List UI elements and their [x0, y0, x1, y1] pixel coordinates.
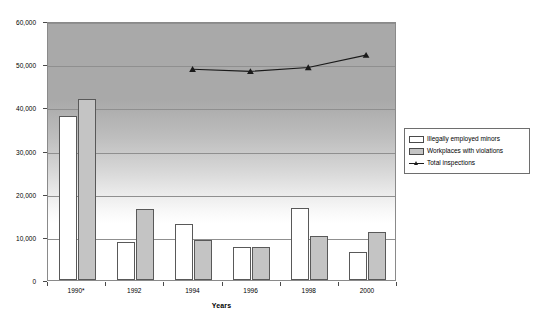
gridline [48, 66, 395, 67]
legend-item-label: Workplaces with violations [427, 147, 503, 155]
x-axis-tick-label: 2000 [360, 287, 374, 295]
x-axis-tick-label: 1996 [243, 287, 257, 295]
bar [310, 236, 328, 280]
total-inspections-line-series [48, 23, 395, 280]
bar [252, 247, 270, 280]
gridline [48, 196, 395, 197]
y-axis: 010,00020,00030,00040,00050,00060,000 [0, 0, 43, 329]
line-path [193, 55, 367, 71]
x-axis-tick-mark [396, 282, 397, 286]
x-axis-tick-mark [338, 282, 339, 286]
line-data-point-marker [247, 68, 254, 74]
x-axis-tick-mark [163, 282, 164, 286]
y-axis-tick-label: 40,000 [16, 105, 36, 112]
legend-item-total-inspections[interactable]: Total inspections [409, 157, 525, 169]
gridline [48, 239, 395, 240]
gridline [48, 109, 395, 110]
x-axis: 1990*19921994199619982000 [47, 287, 396, 299]
y-axis-tick-label: 30,000 [16, 148, 36, 155]
bar [117, 242, 135, 280]
gridline [48, 153, 395, 154]
legend-item-minors[interactable]: Illegally employed minors [409, 133, 525, 145]
y-axis-tick-label: 60,000 [16, 19, 36, 26]
y-axis-tick-label: 20,000 [16, 191, 36, 198]
x-axis-tick-label: 1994 [185, 287, 199, 295]
line-data-point-marker [363, 52, 370, 58]
y-axis-tick-label: 10,000 [16, 234, 36, 241]
white-bar-swatch-icon [409, 136, 424, 143]
bar [194, 240, 212, 280]
plot-area [47, 22, 396, 281]
line-triangle-marker-icon [409, 160, 424, 167]
bar [233, 247, 251, 280]
legend-item-label: Illegally employed minors [427, 135, 500, 143]
x-axis-tick-mark [105, 282, 106, 286]
x-axis-tick-mark [222, 282, 223, 286]
gray-bar-swatch-icon [409, 148, 424, 155]
chart-legend: Illegally employed minors Workplaces wit… [404, 128, 530, 174]
y-axis-tick-label: 0 [32, 278, 36, 285]
legend-item-violations[interactable]: Workplaces with violations [409, 145, 525, 157]
y-axis-tick-label: 50,000 [16, 62, 36, 69]
x-axis-tick-mark [280, 282, 281, 286]
chart-container: 010,00020,00030,00040,00050,00060,000 19… [0, 0, 535, 329]
x-axis-tick-label: 1992 [127, 287, 141, 295]
bar [59, 116, 77, 280]
bar [78, 99, 96, 280]
x-axis-tick-label: 1990* [68, 287, 85, 295]
legend-item-label: Total inspections [427, 159, 475, 167]
bar [368, 232, 386, 280]
bar [136, 209, 154, 280]
x-axis-tick-mark [47, 282, 48, 286]
bar [349, 252, 367, 280]
bar [175, 224, 193, 280]
x-axis-title: Years [47, 302, 396, 309]
gridline [48, 23, 395, 24]
bar [291, 208, 309, 280]
x-axis-tick-label: 1998 [302, 287, 316, 295]
